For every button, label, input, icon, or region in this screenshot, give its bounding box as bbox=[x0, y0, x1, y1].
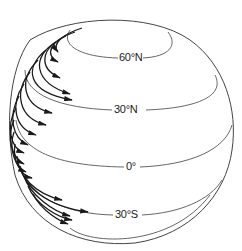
deflection-arrows bbox=[10, 28, 88, 224]
equator-line bbox=[16, 120, 232, 167]
label-60n: 60°N bbox=[118, 51, 143, 63]
label-30n: 30°N bbox=[113, 103, 138, 115]
latitude-60s-line bbox=[70, 195, 210, 239]
label-30s: 30°S bbox=[114, 208, 139, 220]
label-equator: 0° bbox=[125, 160, 137, 172]
